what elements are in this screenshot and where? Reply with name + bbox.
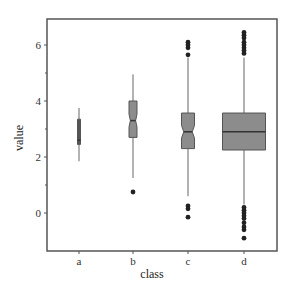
outlier-point xyxy=(242,220,247,225)
y-axis: 0246 xyxy=(36,39,48,219)
y-tick-label: 4 xyxy=(36,95,42,107)
outlier-point xyxy=(242,227,247,232)
y-tick-label: 0 xyxy=(36,207,42,219)
box-body xyxy=(129,101,137,137)
box-body xyxy=(182,113,195,149)
outlier-point xyxy=(131,190,136,195)
outlier-point xyxy=(242,216,247,221)
outlier-point xyxy=(186,45,191,50)
outlier-point xyxy=(186,52,191,57)
outlier-point xyxy=(186,206,191,211)
x-tick-label-d: d xyxy=(241,255,247,267)
outlier-point xyxy=(186,215,191,220)
outlier-point xyxy=(242,236,247,241)
x-tick-label-a: a xyxy=(77,255,82,267)
x-tick-label-b: b xyxy=(130,255,136,267)
y-axis-title: value xyxy=(12,125,26,151)
box-d xyxy=(223,30,266,241)
x-axis: abcd xyxy=(77,251,248,267)
x-axis-title: class xyxy=(140,267,164,281)
box-c xyxy=(182,40,195,220)
boxes-layer xyxy=(78,30,266,241)
boxplot-chart: 0246 abcd class value xyxy=(0,0,293,294)
outlier-point xyxy=(242,36,247,41)
y-tick-label: 2 xyxy=(36,151,42,163)
outlier-point xyxy=(242,51,247,56)
box-a xyxy=(78,108,81,161)
box-b xyxy=(129,74,137,194)
x-tick-label-c: c xyxy=(186,255,191,267)
y-tick-label: 6 xyxy=(36,39,42,51)
